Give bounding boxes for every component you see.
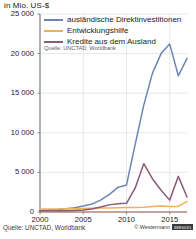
legend-label: Entwicklungshilfe [67,26,128,35]
x-tick-label: 2000 [23,215,57,224]
y-tick-label: 25 000 [0,9,34,18]
chart-legend: ausländische DirektinvestitionenEntwickl… [44,15,181,48]
x-tick-label: 2005 [66,215,100,224]
x-tick-label: 2015 [153,215,187,224]
legend-item-0: ausländische Direktinvestitionen [44,15,181,25]
y-tick-label: 5 000 [0,167,34,176]
legend-source-note: Quelle: UNCTAD, Worldbank [44,45,116,51]
series-lines [40,44,187,211]
x-tick-label: 2010 [109,215,143,224]
legend-item-1: Entwicklungshilfe [44,26,181,36]
footer-source-note: Quelle: UNCTAD, Worldbank [3,224,85,231]
legend-color-swatch [44,19,63,21]
copyright-label: © Westermann [134,224,170,230]
y-tick-label: 20 000 [0,49,34,58]
y-tick-label: 10 000 [0,128,34,137]
footer-credit: © Westermann 3885031 [134,224,193,230]
credit-code: 3885031 [172,224,193,230]
legend-label: ausländische Direktinvestitionen [67,15,181,24]
chart-container: in Mio. US-$ 05 00010 00015 00020 00025 … [0,0,196,239]
y-tick-label: 15 000 [0,88,34,97]
legend-color-swatch [44,41,63,43]
legend-color-swatch [44,30,63,32]
